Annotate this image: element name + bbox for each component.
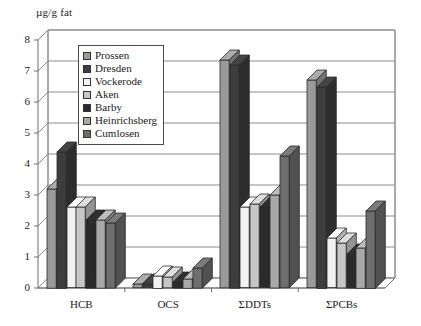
bar-OCS-heinrichsberg — [183, 269, 192, 288]
bar-PCBs-dresden — [317, 77, 326, 289]
legend-swatch-icon — [83, 117, 91, 125]
legend-item-label: Cumlosen — [95, 127, 140, 140]
legend-swatch-icon — [83, 130, 91, 138]
bar-PCBs-prossen — [307, 70, 316, 288]
bar-DDTs-prossen — [220, 50, 229, 288]
bar-HCB-dresden — [57, 142, 66, 288]
bar-chart: µg/g fat 012345678 HCBOCSΣDDTsΣPCBs Pros… — [0, 0, 421, 326]
bar-OCS-prossen — [133, 274, 142, 288]
bar-PCBs-aken — [337, 233, 346, 288]
bar-HCB-vockerode — [67, 197, 76, 288]
y-axis-tick-label: 1 — [14, 251, 30, 262]
bar-PCBs-barby — [347, 244, 356, 288]
y-axis-tick-label: 6 — [14, 96, 30, 107]
bar-PCBs-heinrichsberg — [356, 238, 365, 288]
bar-HCB-prossen — [47, 179, 56, 288]
bar-HCB-heinrichsberg — [96, 210, 105, 288]
bar-OCS-dresden — [143, 274, 152, 288]
bar-OCS-aken — [163, 267, 172, 288]
legend-item: Aken — [83, 88, 157, 101]
bar-HCB-aken — [76, 197, 85, 288]
y-axis-tick-label: 7 — [14, 65, 30, 76]
legend-swatch-icon — [83, 65, 91, 73]
legend-item-label: Barby — [95, 101, 122, 114]
bar-DDTs-heinrichsberg — [270, 185, 279, 288]
bar-DDTs-cumlosen — [280, 146, 289, 288]
bar-OCS-barby — [173, 272, 182, 288]
legend-swatch-icon — [83, 91, 91, 99]
legend-swatch-icon — [83, 78, 91, 86]
bar-HCB-barby — [86, 210, 95, 288]
bar-HCB-cumlosen — [106, 213, 115, 288]
y-axis-tick-label: 5 — [14, 127, 30, 138]
y-axis-tick-label: 2 — [14, 220, 30, 231]
x-axis-tick-label: ΣDDTs — [210, 298, 300, 310]
x-axis-tick-label: OCS — [123, 298, 213, 310]
y-axis-tick-label: 3 — [14, 189, 30, 200]
legend-item: Cumlosen — [83, 127, 157, 140]
legend-item-label: Heinrichsberg — [95, 114, 157, 127]
legend-item-label: Prossen — [95, 49, 129, 62]
legend-item: Prossen — [83, 49, 157, 62]
y-axis-tick-label: 0 — [14, 282, 30, 293]
bar-DDTs-dresden — [230, 55, 239, 288]
legend-swatch-icon — [83, 104, 91, 112]
x-axis-tick-label: HCB — [36, 298, 126, 310]
y-axis-tick-label: 4 — [14, 158, 30, 169]
bar-OCS-cumlosen — [193, 258, 202, 288]
legend: ProssenDresdenVockerodeAkenBarbyHeinrich… — [78, 45, 164, 145]
bar-DDTs-vockerode — [240, 197, 249, 288]
legend-item: Heinrichsberg — [83, 114, 157, 127]
x-axis-tick-label: ΣPCBs — [297, 298, 387, 310]
bar-PCBs-cumlosen — [366, 201, 375, 289]
legend-item: Vockerode — [83, 75, 157, 88]
legend-swatch-icon — [83, 52, 91, 60]
legend-item-label: Aken — [95, 88, 119, 101]
legend-item-label: Dresden — [95, 62, 132, 75]
bar-DDTs-barby — [260, 197, 269, 288]
legend-item: Barby — [83, 101, 157, 114]
legend-item-label: Vockerode — [95, 75, 142, 88]
legend-item: Dresden — [83, 62, 157, 75]
plot-area: 012345678 HCBOCSΣDDTsΣPCBs — [0, 0, 421, 326]
y-axis-tick-label: 8 — [14, 34, 30, 45]
bar-DDTs-aken — [250, 194, 259, 288]
bar-OCS-vockerode — [153, 266, 162, 288]
bar-PCBs-vockerode — [327, 228, 336, 288]
